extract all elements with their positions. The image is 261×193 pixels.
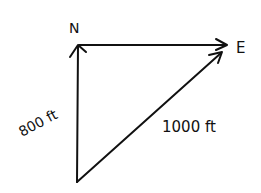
vector-diagram: N E 800 ft 1000 ft	[0, 0, 261, 193]
resultant-vector	[77, 52, 222, 182]
east-vector	[79, 39, 227, 50]
north-leg-label: 800 ft	[16, 106, 60, 140]
north-vector	[70, 45, 86, 182]
north-label: N	[69, 20, 79, 36]
resultant-label: 1000 ft	[162, 118, 216, 136]
east-label: E	[236, 39, 245, 57]
